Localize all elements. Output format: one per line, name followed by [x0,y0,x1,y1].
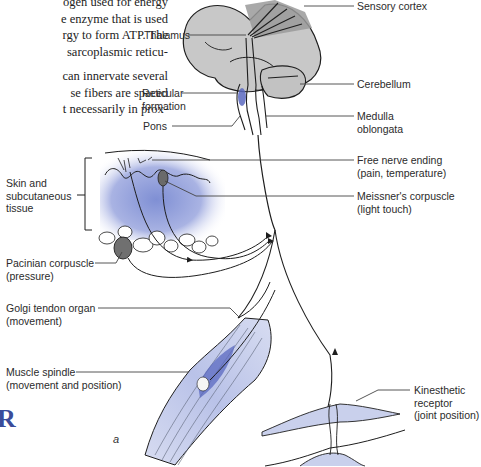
leader-line-joint [356,390,410,401]
label-free-nerve-ending: Free nerve ending (pain, temperature) [357,154,446,179]
label-thalamus: Thalamus [144,29,190,42]
label-muscle-spindle: Muscle spindle (movement and position) [6,366,122,391]
label-kinesthetic-receptor: Kinesthetic receptor (joint position) [414,384,479,422]
section-letter: R [0,404,16,434]
label-golgi-tendon-organ: Golgi tendon organ (movement) [6,302,95,327]
meissners-corpuscle-shape [158,170,168,186]
label-cerebellum: Cerebellum [357,78,411,91]
label-reticular-formation: Reticular formation [142,87,186,112]
skin-bracket [77,158,92,230]
label-meissners-corpuscle: Meissner's corpuscle (light touch) [357,190,455,215]
muscle-illustration [145,282,275,465]
reticular-formation-highlight [238,88,246,106]
joint-illustration [262,348,405,466]
label-medulla-oblongata: Medulla oblongata [357,110,403,135]
panel-letter: a [113,433,119,445]
label-sensory-cortex: Sensory cortex [357,0,427,13]
label-pons: Pons [143,120,167,133]
label-skin-subcutaneous-tissue: Skin and subcutaneous tissue [6,177,71,215]
label-pacinian-corpuscle: Pacinian corpuscle (pressure) [6,257,94,282]
skin-illustration [99,150,274,277]
sensory-pathway-diagram [0,0,481,467]
pacinian-corpuscle-shape [114,237,132,259]
brain-illustration [183,0,320,135]
